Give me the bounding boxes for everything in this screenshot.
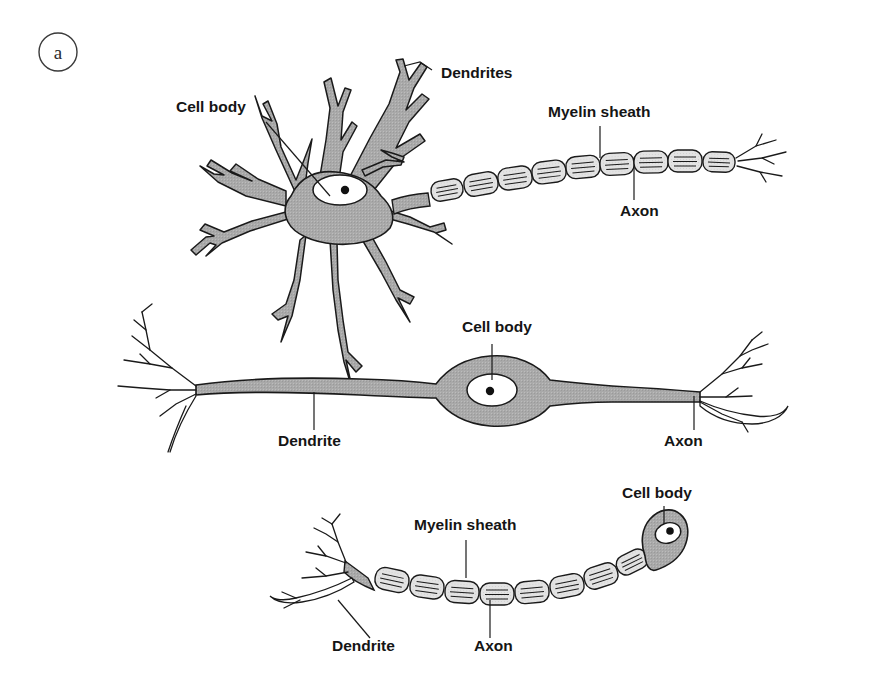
- label-cell-body: Cell body: [622, 484, 692, 501]
- neuron-multipolar: Dendrites Cell body Myelin sheath Axon: [176, 59, 786, 388]
- bipolar-axon-terminals: [700, 332, 788, 432]
- neuron-diagram: a: [0, 0, 885, 690]
- neuron-unipolar: Cell body Myelin sheath Axon Dendrite: [270, 484, 692, 654]
- neuron-bipolar: Cell body Dendrite Axon: [118, 304, 788, 452]
- multipolar-axon-hillock: [392, 193, 430, 214]
- label-dendrite: Dendrite: [278, 432, 341, 449]
- multipolar-nucleus: [313, 175, 367, 205]
- bipolar-cell-outline: [196, 356, 700, 427]
- label-cell-body: Cell body: [462, 318, 532, 335]
- bipolar-nucleolus: [486, 387, 494, 395]
- label-axon: Axon: [620, 202, 659, 219]
- panel-letter-badge: a: [39, 33, 77, 71]
- label-axon: Axon: [664, 432, 703, 449]
- figure-panel: a: [0, 0, 885, 690]
- leader-dendrite: [338, 600, 370, 638]
- label-dendrites: Dendrites: [441, 64, 513, 81]
- multipolar-myelin-sheath: [430, 150, 736, 203]
- unipolar-dendrite-terminals: [270, 514, 354, 608]
- multipolar-axon-terminals: [736, 134, 786, 182]
- label-cell-body: Cell body: [176, 98, 246, 115]
- unipolar-myelin-sheath: [373, 546, 651, 605]
- label-dendrite: Dendrite: [332, 637, 395, 654]
- multipolar-nucleolus: [341, 186, 349, 194]
- label-myelin-sheath: Myelin sheath: [548, 103, 651, 120]
- label-axon: Axon: [474, 637, 513, 654]
- bipolar-dendrite-terminals: [118, 304, 196, 452]
- label-myelin-sheath: Myelin sheath: [414, 516, 517, 533]
- unipolar-nucleolus: [666, 527, 674, 535]
- panel-letter-text: a: [54, 42, 63, 63]
